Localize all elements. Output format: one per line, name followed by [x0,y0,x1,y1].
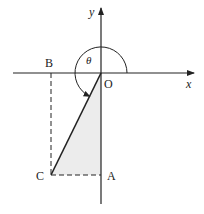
y-axis-label: y [88,5,95,19]
angle-theta-label: θ [86,54,92,66]
coordinate-diagram: y x θ O B C A [0,0,204,214]
point-label-o: O [104,77,113,91]
point-label-a: A [107,169,116,183]
point-label-c: C [36,169,44,183]
point-label-b: B [45,56,53,70]
x-axis-label: x [185,77,192,91]
